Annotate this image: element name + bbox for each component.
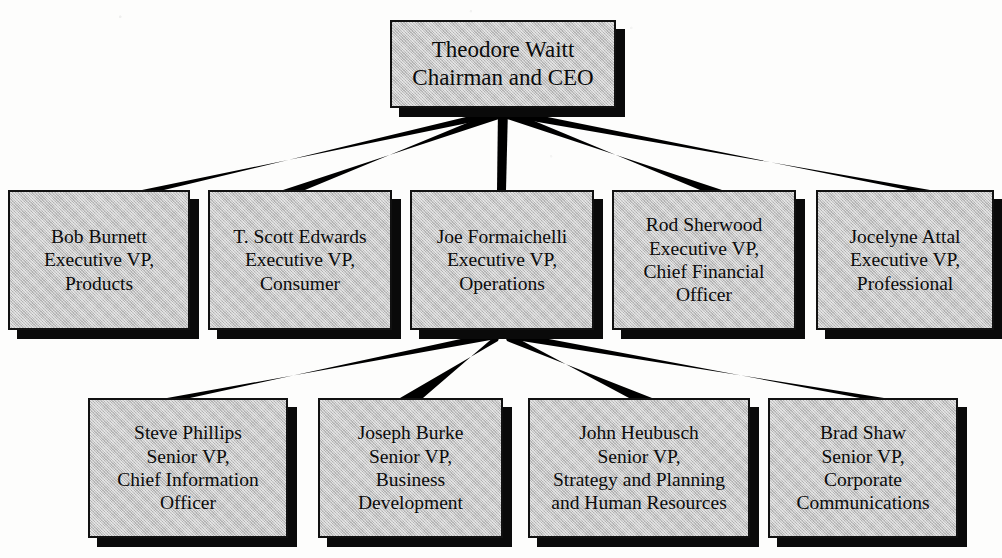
org-node-rod-sherwood[interactable]: Rod Sherwood Executive VP, Chief Financi…	[612, 190, 796, 330]
org-node-ceo-text: Theodore Waitt Chairman and CEO	[392, 36, 614, 91]
org-node-steve-phillips-name: Steve Phillips	[94, 421, 282, 444]
org-node-joseph-burke-title-2: Business	[324, 468, 497, 491]
org-node-bob-burnett-text: Bob Burnett Executive VP, Products	[10, 225, 188, 295]
org-node-steve-phillips-title-3: Officer	[94, 491, 282, 514]
org-node-ceo-name: Theodore Waitt	[396, 36, 610, 64]
org-node-joseph-burke-title-3: Development	[324, 491, 497, 514]
org-node-john-heubusch-title-1: Senior VP,	[534, 445, 744, 468]
org-chart-canvas: Theodore Waitt Chairman and CEO Bob Burn…	[0, 0, 1002, 558]
connector-operations-to-phillips	[167, 330, 502, 398]
operations-connector-group	[167, 330, 884, 398]
org-node-steve-phillips[interactable]: Steve Phillips Senior VP, Chief Informat…	[88, 398, 288, 538]
org-node-rod-sherwood-title-3: Officer	[618, 283, 790, 306]
connector-ceo-to-attal	[503, 108, 930, 190]
org-node-bob-burnett-name: Bob Burnett	[14, 225, 184, 248]
org-node-t-scott-edwards[interactable]: T. Scott Edwards Executive VP, Consumer	[208, 190, 392, 330]
org-node-john-heubusch-title-2: Strategy and Planning	[534, 468, 744, 491]
org-node-jocelyne-attal[interactable]: Jocelyne Attal Executive VP, Professiona…	[816, 190, 994, 330]
ceo-connector-group	[142, 108, 930, 190]
org-node-rod-sherwood-title-1: Executive VP,	[618, 237, 790, 260]
org-node-joe-formaichelli-text: Joe Formaichelli Executive VP, Operation…	[412, 225, 592, 295]
org-node-joseph-burke[interactable]: Joseph Burke Senior VP, Business Develop…	[318, 398, 503, 538]
org-node-bob-burnett-title-1: Executive VP,	[14, 248, 184, 271]
org-node-joe-formaichelli[interactable]: Joe Formaichelli Executive VP, Operation…	[410, 190, 594, 330]
org-node-jocelyne-attal-title-2: Professional	[822, 272, 988, 295]
org-node-jocelyne-attal-title-1: Executive VP,	[822, 248, 988, 271]
org-node-joe-formaichelli-title-2: Operations	[416, 272, 588, 295]
org-node-joe-formaichelli-title-1: Executive VP,	[416, 248, 588, 271]
org-node-brad-shaw-name: Brad Shaw	[774, 421, 952, 444]
org-node-jocelyne-attal-name: Jocelyne Attal	[822, 225, 988, 248]
org-node-rod-sherwood-name: Rod Sherwood	[618, 213, 790, 236]
org-node-steve-phillips-title-2: Chief Information	[94, 468, 282, 491]
org-node-joseph-burke-text: Joseph Burke Senior VP, Business Develop…	[320, 421, 501, 515]
org-node-john-heubusch[interactable]: John Heubusch Senior VP, Strategy and Pl…	[528, 398, 750, 538]
org-node-steve-phillips-text: Steve Phillips Senior VP, Chief Informat…	[90, 421, 286, 515]
org-node-steve-phillips-title-1: Senior VP,	[94, 445, 282, 468]
org-node-bob-burnett[interactable]: Bob Burnett Executive VP, Products	[8, 190, 190, 330]
connector-operations-to-shaw	[502, 330, 884, 398]
org-node-joe-formaichelli-name: Joe Formaichelli	[416, 225, 588, 248]
org-node-rod-sherwood-text: Rod Sherwood Executive VP, Chief Financi…	[614, 213, 794, 307]
connector-ceo-to-formaichelli	[497, 108, 508, 190]
org-node-john-heubusch-title-3: and Human Resources	[534, 491, 744, 514]
org-node-brad-shaw-text: Brad Shaw Senior VP, Corporate Communica…	[770, 421, 956, 515]
org-node-bob-burnett-title-2: Products	[14, 272, 184, 295]
org-node-t-scott-edwards-text: T. Scott Edwards Executive VP, Consumer	[210, 225, 390, 295]
org-node-brad-shaw-title-1: Senior VP,	[774, 445, 952, 468]
org-node-t-scott-edwards-title-1: Executive VP,	[214, 248, 386, 271]
org-node-john-heubusch-text: John Heubusch Senior VP, Strategy and Pl…	[530, 421, 748, 515]
org-node-ceo[interactable]: Theodore Waitt Chairman and CEO	[390, 20, 616, 108]
org-node-ceo-title-1: Chairman and CEO	[396, 64, 610, 92]
org-node-t-scott-edwards-title-2: Consumer	[214, 272, 386, 295]
org-node-t-scott-edwards-name: T. Scott Edwards	[214, 225, 386, 248]
org-node-rod-sherwood-title-2: Chief Financial	[618, 260, 790, 283]
org-node-joseph-burke-title-1: Senior VP,	[324, 445, 497, 468]
org-node-john-heubusch-name: John Heubusch	[534, 421, 744, 444]
org-node-brad-shaw-title-2: Corporate	[774, 468, 952, 491]
org-node-brad-shaw[interactable]: Brad Shaw Senior VP, Corporate Communica…	[768, 398, 958, 538]
org-node-jocelyne-attal-text: Jocelyne Attal Executive VP, Professiona…	[818, 225, 992, 295]
org-node-joseph-burke-name: Joseph Burke	[324, 421, 497, 444]
org-node-brad-shaw-title-3: Communications	[774, 491, 952, 514]
